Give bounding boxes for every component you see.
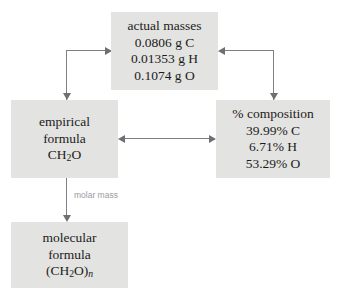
node-percent-composition[interactable]: % composition 39.99% C 6.71% H 53.29% O (216, 100, 330, 178)
molecular-formula-label-line2: formula (48, 247, 91, 264)
arrowhead-into-empirical-formula-top (63, 93, 71, 100)
diagram-canvas: molar mass actual masses 0.0806 g C 0.01… (0, 0, 346, 298)
empirical-formula-prefix: CH (48, 147, 67, 162)
edge-label-molar-mass: molar mass (74, 190, 118, 200)
connector-empirical-to-percent (124, 138, 210, 139)
percent-composition-oxygen: 53.29% O (246, 156, 301, 173)
arrowhead-into-percent-composition-top (270, 93, 278, 100)
empirical-formula-label-line2: formula (43, 131, 86, 148)
empirical-formula-suffix: O (71, 147, 81, 162)
arrowhead-into-empirical-formula-right (118, 135, 125, 143)
arrowhead-into-molecular-formula-top (63, 215, 71, 222)
molecular-formula-label-line1: molecular (43, 230, 97, 247)
actual-masses-oxygen: 0.1074 g O (134, 68, 194, 85)
node-actual-masses[interactable]: actual masses 0.0806 g C 0.01353 g H 0.1… (111, 12, 218, 90)
molecular-formula-value: (CH2O)n (46, 263, 93, 280)
actual-masses-carbon: 0.0806 g C (135, 35, 195, 52)
percent-composition-carbon: 39.99% C (246, 123, 300, 140)
connector-empirical-to-molecular (66, 178, 67, 216)
connector-right-elbow-horizontal (225, 50, 274, 51)
molecular-formula-subscript-n: n (88, 268, 93, 279)
arrowhead-into-actual-masses-right (218, 47, 225, 55)
node-molecular-formula[interactable]: molecular formula (CH2O)n (11, 222, 128, 288)
empirical-formula-value: CH2O (48, 147, 81, 164)
actual-masses-heading: actual masses (128, 18, 202, 35)
molecular-formula-mid: O) (74, 263, 88, 278)
actual-masses-hydrogen: 0.01353 g H (131, 51, 198, 68)
node-empirical-formula[interactable]: empirical formula CH2O (11, 100, 118, 178)
empirical-formula-label-line1: empirical (39, 114, 90, 131)
percent-composition-hydrogen: 6.71% H (249, 139, 297, 156)
arrowhead-into-percent-composition-left (209, 135, 216, 143)
percent-composition-heading: % composition (232, 106, 313, 123)
molecular-formula-prefix: (CH (46, 263, 69, 278)
